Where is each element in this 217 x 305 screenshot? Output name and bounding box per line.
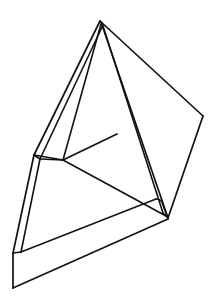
drawing-canvas (0, 0, 217, 305)
edge-base-left-top-cap (13, 252, 21, 253)
wireframe-figure (0, 0, 217, 305)
edge-mid-left-inner-to-inner-node (40, 159, 63, 160)
